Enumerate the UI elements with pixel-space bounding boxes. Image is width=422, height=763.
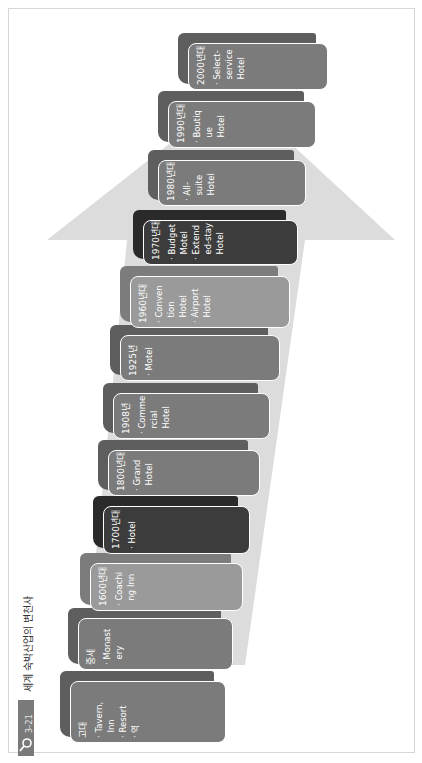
card-item: Hotel — [143, 452, 155, 491]
card-era: 1800년대 — [115, 452, 127, 491]
card-face: 1800년대· Grand Hotel — [108, 450, 260, 496]
card-item: · Hotel — [126, 510, 138, 549]
card-item: Hotel — [214, 221, 226, 260]
figure-title: 세계 숙박산업의 변천사 — [20, 596, 35, 692]
card-face: 1908년· Comme rcial Hotel — [113, 393, 270, 439]
card-era: 1990년대 — [175, 104, 187, 143]
card-item: Hotel — [177, 284, 189, 323]
card-face: 1990년대· Boutiq ue Hotel — [168, 101, 316, 148]
card-item: · All- — [181, 162, 193, 201]
card-item: Hotel — [201, 284, 213, 323]
card-face: 1960년대· Conven tion Hotel· Airport Hotel — [130, 276, 290, 328]
card-item: Inn — [105, 702, 117, 738]
card-item: ed-stay — [202, 221, 214, 260]
card-item: · Conven — [153, 284, 165, 323]
card-item: Motel — [178, 221, 190, 260]
card-item: · 역 — [129, 702, 141, 738]
card-item: · Comme — [136, 396, 148, 434]
card-item: · Tavern, — [93, 702, 105, 738]
timeline-card: 1960년대· Conven tion Hotel· Airport Hotel — [120, 266, 292, 330]
timeline-card: 고대· Tavern, Inn· Resort· 역 — [60, 671, 228, 745]
timeline-card: 중세· Monast ery — [68, 608, 235, 672]
card-item: rcial — [148, 396, 160, 434]
card-item: suite — [193, 162, 205, 201]
card-item: · Motel — [143, 345, 155, 376]
card-era: 1960년대 — [137, 284, 149, 323]
magnifier-icon — [18, 736, 34, 754]
card-face: 1600년대· Coachi ng Inn — [90, 563, 243, 611]
card-face: 고대· Tavern, Inn· Resort· 역 — [70, 681, 226, 743]
card-item: · Extend — [190, 221, 202, 260]
card-item: · Boutiq — [191, 104, 203, 143]
card-item: Hotel — [235, 46, 247, 85]
card-item: · Coachi — [113, 567, 125, 606]
card-face: 2000년대· Select- service Hotel — [188, 43, 328, 90]
card-item: Hotel — [215, 104, 227, 143]
card-item: service — [223, 46, 235, 85]
card-face: 1980년대· All- suite Hotel — [158, 160, 306, 206]
figure-caption: 그림 3-21 세계 숙박산업의 변천사 — [14, 560, 44, 756]
card-item: · Select- — [211, 46, 223, 85]
timeline-card: 1908년· Comme rcial Hotel — [103, 383, 272, 441]
timeline-card: 1980년대· All- suite Hotel — [148, 150, 308, 208]
card-era: 고대 — [77, 702, 89, 738]
card-item: ng Inn — [125, 567, 137, 606]
card-era: 1980년대 — [165, 162, 177, 201]
timeline-card: 2000년대· Select- service Hotel — [178, 33, 330, 92]
timeline-card: 1925년· Motel — [110, 325, 282, 383]
timeline-card: 1970년대· Budget Motel· Extend ed-stay Hot… — [133, 210, 300, 267]
card-item: · Grand — [131, 452, 143, 491]
card-item: Hotel — [205, 162, 217, 201]
card-item: tion — [165, 284, 177, 323]
timeline-card: 1700년대· Hotel — [93, 496, 252, 556]
card-face: 1925년· Motel — [120, 335, 280, 381]
card-item: Hotel — [160, 396, 172, 434]
card-era: 1925년 — [127, 345, 139, 376]
card-item: · Airport — [189, 284, 201, 323]
card-item: · Budget — [166, 221, 178, 260]
card-era: 중세 — [85, 629, 97, 665]
card-item: ue — [203, 104, 215, 143]
card-item: · Resort — [117, 702, 129, 738]
card-era: 2000년대 — [195, 46, 207, 85]
card-face: 1700년대· Hotel — [103, 506, 250, 554]
card-era: 1600년대 — [97, 567, 109, 606]
card-item: · Monast — [101, 629, 113, 665]
timeline-card: 1800년대· Grand Hotel — [98, 440, 262, 498]
card-item: ery — [113, 629, 125, 665]
card-era: 1908년 — [120, 396, 132, 434]
timeline-card: 1990년대· Boutiq ue Hotel — [158, 91, 318, 150]
card-face: 1970년대· Budget Motel· Extend ed-stay Hot… — [143, 220, 298, 265]
card-era: 1970년대 — [150, 221, 162, 260]
card-face: 중세· Monast ery — [78, 618, 233, 670]
card-era: 1700년대 — [110, 510, 122, 549]
timeline-card: 1600년대· Coachi ng Inn — [80, 553, 245, 613]
